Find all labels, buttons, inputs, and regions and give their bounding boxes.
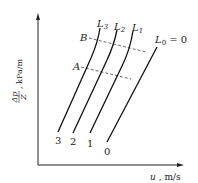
end-label-0: 0: [104, 146, 110, 157]
flooding-diagram: L3 L2 L1 L0 = 0 B A 3 2 1 0 u , m/s Δp Z…: [0, 0, 198, 183]
x-axis-label: u , m/s: [150, 172, 181, 182]
curve-2: [73, 30, 117, 133]
label-B: B: [79, 32, 87, 43]
x-axis-arrow-icon: [177, 163, 184, 167]
label-L0: L0 = 0: [154, 34, 187, 47]
curve-3: [58, 28, 100, 132]
y-axis-label: Δp Z , kPa/m: [10, 59, 28, 104]
svg-text:, kPa/m: , kPa/m: [15, 59, 24, 89]
end-label-3: 3: [55, 135, 61, 146]
reference-line-A: [81, 67, 131, 79]
end-label-1: 1: [87, 138, 93, 149]
label-L2: L2: [113, 21, 126, 34]
svg-text:Δp: Δp: [10, 92, 19, 104]
end-label-2: 2: [70, 136, 76, 147]
curve-0: [107, 47, 157, 142]
svg-text:Z: Z: [19, 94, 28, 101]
y-axis-arrow-icon: [36, 13, 40, 20]
label-L3: L3: [96, 18, 109, 31]
label-A: A: [72, 61, 80, 72]
